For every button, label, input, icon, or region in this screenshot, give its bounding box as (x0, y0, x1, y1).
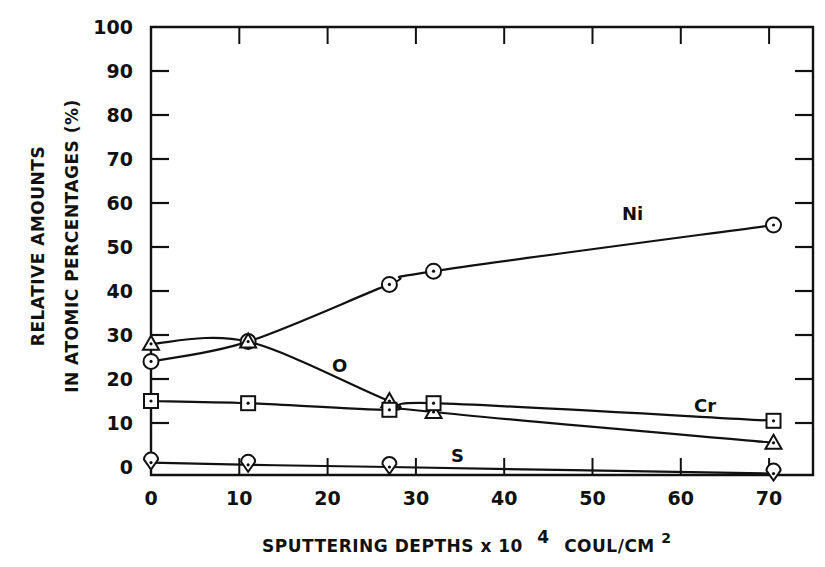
x-tick-label: 60 (668, 487, 694, 509)
y-tick-label: 40 (107, 280, 133, 302)
circle-marker-icon (382, 277, 397, 292)
series-label-cr: Cr (694, 395, 716, 416)
x-axis-title-unit-exponent: 2 (661, 530, 671, 546)
square-marker-icon (427, 396, 441, 410)
series-label-o: O (332, 355, 347, 376)
circle-marker-icon (144, 354, 159, 369)
x-axis-title-unit: COUL/CM (564, 536, 655, 556)
y-tick-label: 70 (107, 148, 133, 170)
y-axis-title-line2: IN ATOMIC PERCENTAGES (%) (62, 99, 82, 393)
y-tick-label: 50 (107, 236, 133, 258)
x-tick-label: 70 (756, 487, 782, 509)
y-axis-title-line1: RELATIVE AMOUNTS (28, 146, 48, 346)
y-tick-label: 30 (107, 324, 133, 346)
series-label-s: S (451, 445, 464, 466)
diamond-marker-icon (382, 457, 396, 474)
square-marker-icon (144, 394, 158, 408)
square-marker-icon (382, 403, 396, 417)
y-axis-title: RELATIVE AMOUNTS IN ATOMIC PERCENTAGES (… (28, 99, 82, 393)
x-axis-ticks: 010203040506070 (144, 27, 782, 509)
x-tick-label: 20 (314, 487, 340, 509)
x-tick-label: 40 (491, 487, 517, 509)
series-label-ni: Ni (622, 203, 643, 224)
y-tick-label: 100 (93, 16, 133, 38)
x-tick-label: 30 (403, 487, 429, 509)
diamond-marker-icon (144, 453, 158, 470)
square-marker-icon (767, 414, 781, 428)
x-axis-title-exponent: 4 (537, 527, 549, 547)
x-tick-label: 50 (579, 487, 605, 509)
y-tick-label: 90 (107, 60, 133, 82)
square-marker-icon (241, 396, 255, 410)
x-axis-title-main: SPUTTERING DEPTHS x 10 (262, 536, 523, 556)
y-tick-label: 80 (107, 104, 133, 126)
circle-marker-icon (766, 218, 781, 233)
diamond-marker-icon (241, 455, 255, 472)
x-axis-title: SPUTTERING DEPTHS x 10 4 COUL/CM 2 (262, 527, 671, 556)
x-tick-label: 0 (144, 487, 157, 509)
series-line-o (151, 338, 774, 443)
series-lines (151, 225, 774, 474)
line-chart: 0102030405060708090100 010203040506070 N… (0, 0, 825, 567)
circle-marker-icon (426, 264, 441, 279)
y-tick-label: 20 (107, 368, 133, 390)
series-markers (143, 218, 782, 481)
x-tick-label: 10 (226, 487, 252, 509)
y-tick-label: 0 (120, 456, 133, 478)
y-tick-label: 60 (107, 192, 133, 214)
y-tick-label: 10 (107, 412, 133, 434)
diamond-marker-icon (767, 464, 781, 481)
